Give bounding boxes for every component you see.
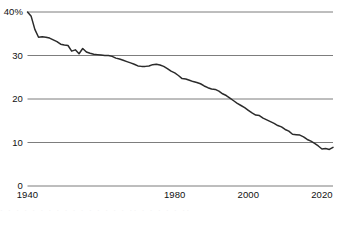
y-tick-label: 10 [0,138,23,148]
y-tick-label: 20 [0,94,23,104]
x-tick-label: 2000 [226,190,270,200]
line-chart: 40%3020100 1940198020002020 · · · · · · … [0,0,338,225]
y-tick-label: 30 [0,51,23,61]
bottom-caption-fragment: · · · · · · · · · · · · · · · · ·· · · ·… [0,206,338,225]
x-tick-label: 1980 [153,190,197,200]
y-tick-label: 40% [0,7,23,17]
gridlines [28,12,334,186]
data-series-group [28,12,334,149]
data-line [28,12,334,149]
x-tick-label: 2020 [300,190,338,200]
x-tick-label: 1940 [6,190,50,200]
